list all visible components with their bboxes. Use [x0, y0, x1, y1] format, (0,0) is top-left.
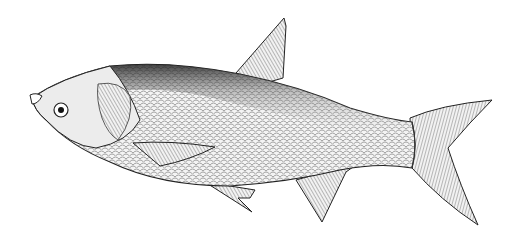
caudal-fin: [410, 100, 492, 225]
fish-illustration-canvas: [0, 0, 526, 238]
fish-illustration: [0, 0, 526, 238]
dorsal-fin: [236, 18, 286, 84]
